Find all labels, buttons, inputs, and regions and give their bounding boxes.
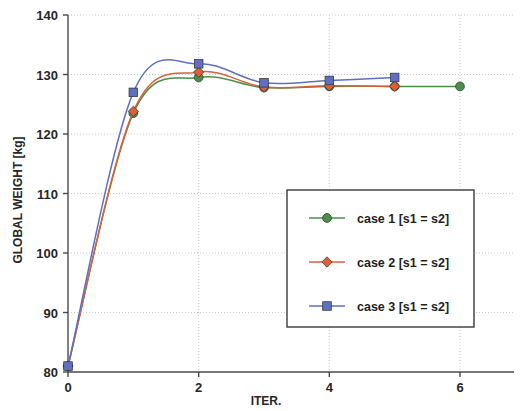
x-tick-label: 2 [195, 380, 202, 395]
legend-marker-square [323, 302, 332, 311]
y-axis-label: GLOBAL WEIGHT [kg] [11, 136, 25, 263]
y-tick-label: 120 [36, 127, 58, 142]
data-point-marker [194, 59, 203, 68]
x-tick-label: 0 [64, 380, 71, 395]
data-point-marker [129, 88, 138, 97]
data-point-marker [64, 362, 73, 371]
y-tick-label: 100 [36, 246, 58, 261]
legend-label: case 2 [s1 = s2] [357, 256, 449, 270]
data-point-marker [390, 73, 399, 82]
x-tick-label: 4 [326, 380, 334, 395]
data-point-marker [456, 82, 465, 91]
y-tick-label: 140 [36, 8, 58, 23]
y-tick-label: 80 [44, 365, 58, 380]
legend-label: case 3 [s1 = s2] [357, 300, 449, 314]
legend-label: case 1 [s1 = s2] [357, 212, 449, 226]
y-tick-label: 130 [36, 68, 58, 83]
data-point-marker [325, 76, 334, 85]
x-tick-label: 6 [456, 380, 463, 395]
line-chart: 8090100110120130140 0246 GLOBAL WEIGHT [… [0, 0, 521, 411]
legend: case 1 [s1 = s2]case 2 [s1 = s2]case 3 [… [287, 190, 474, 327]
data-point-marker [260, 79, 269, 88]
y-tick-label: 90 [44, 306, 58, 321]
y-tick-label: 110 [37, 187, 58, 202]
x-axis-label: ITER. [251, 394, 282, 408]
legend-marker-circle [323, 214, 332, 223]
chart-container: 8090100110120130140 0246 GLOBAL WEIGHT [… [0, 0, 521, 411]
